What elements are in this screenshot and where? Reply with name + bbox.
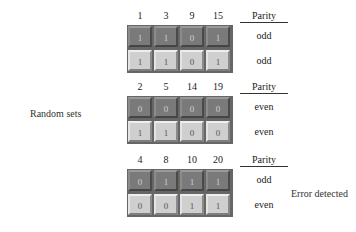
- bit-cell: 1: [154, 26, 178, 47]
- parity-header: Parity: [240, 10, 288, 23]
- bit-cell: 0: [128, 194, 152, 215]
- column-header: 3: [153, 10, 179, 21]
- bit-cell: 1: [154, 121, 178, 142]
- column-header: 14: [179, 81, 205, 92]
- bit-cell: 1: [206, 194, 230, 215]
- column-header: 8: [153, 154, 179, 165]
- column-header: 2: [127, 81, 153, 92]
- error-detected-label: Error detected: [291, 188, 348, 199]
- bit-cell: 0: [180, 121, 204, 142]
- column-header: 4: [127, 154, 153, 165]
- bit-cell: 0: [206, 97, 230, 118]
- bit-grid: 0 0 0 0 1 1 0 0: [127, 96, 233, 144]
- bit-cell: 0: [180, 50, 204, 71]
- bit-cell: 1: [128, 121, 152, 142]
- parity-value: odd: [240, 30, 288, 41]
- bit-cell: 1: [180, 170, 204, 191]
- bit-grid: 1 1 0 1 1 1 0 1: [127, 25, 233, 73]
- parity-value: even: [240, 101, 288, 112]
- bit-cell: 0: [180, 26, 204, 47]
- random-sets-label: Random sets: [30, 108, 81, 119]
- column-header: 9: [179, 10, 205, 21]
- bit-cell: 0: [206, 121, 230, 142]
- column-header: 10: [179, 154, 205, 165]
- parity-value: odd: [240, 55, 288, 66]
- column-header: 15: [205, 10, 231, 21]
- bit-cell: 1: [206, 50, 230, 71]
- column-header: 19: [205, 81, 231, 92]
- bit-cell: 0: [128, 97, 152, 118]
- bit-cell: 1: [206, 26, 230, 47]
- bit-cell: 1: [206, 170, 230, 191]
- parity-header: Parity: [240, 81, 288, 94]
- parity-value: even: [240, 126, 288, 137]
- column-header: 20: [205, 154, 231, 165]
- bit-cell: 1: [180, 194, 204, 215]
- parity-value: even: [240, 199, 288, 210]
- column-header: 1: [127, 10, 153, 21]
- bit-cell: 0: [154, 194, 178, 215]
- bit-cell: 1: [128, 50, 152, 71]
- bit-grid: 0 1 1 1 0 0 1 1: [127, 169, 233, 217]
- column-header: 5: [153, 81, 179, 92]
- bit-cell: 0: [154, 97, 178, 118]
- bit-cell: 0: [180, 97, 204, 118]
- bit-cell: 1: [128, 26, 152, 47]
- bit-cell: 1: [154, 50, 178, 71]
- parity-header: Parity: [240, 154, 288, 167]
- bit-cell: 0: [128, 170, 152, 191]
- bit-cell: 1: [154, 170, 178, 191]
- parity-value: odd: [240, 174, 288, 185]
